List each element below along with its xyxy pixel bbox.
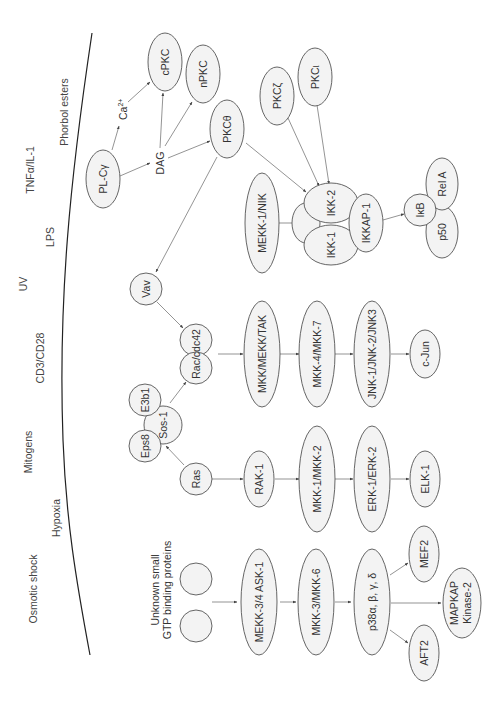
node-e3b1[interactable]: E3b1: [129, 384, 161, 416]
svg-text:IKK-2: IKK-2: [325, 190, 337, 216]
node-mkk3-mkk6[interactable]: MKK-3/MKK-6: [298, 549, 334, 655]
label-unknown-gtp-line1: Unknown small: [149, 554, 161, 625]
node-ikb[interactable]: IκB: [404, 194, 436, 226]
svg-text:Kinase-2: Kinase-2: [461, 582, 473, 624]
svg-text:Vav: Vav: [140, 280, 152, 298]
node-mekk1-nik[interactable]: MEKK-1/NIK: [245, 173, 279, 273]
svg-text:MEKK-3/4 ASK-1: MEKK-3/4 ASK-1: [253, 562, 265, 643]
svg-text:PKCθ: PKCθ: [221, 115, 233, 143]
node-plcg[interactable]: PL-Cγ: [86, 150, 120, 208]
svg-text:ELK-1: ELK-1: [419, 464, 431, 493]
stimulus-tnf-il1: TNFα/IL-1: [24, 146, 36, 194]
node-eps8[interactable]: Eps8: [129, 430, 161, 462]
stimulus-lps: LPS: [44, 227, 56, 247]
node-pkc-iota[interactable]: PKCι: [298, 48, 332, 106]
svg-text:IKKAP-1: IKKAP-1: [360, 203, 372, 243]
svg-text:Sos-1: Sos-1: [157, 411, 169, 439]
node-mkk-mekk-tak[interactable]: MKK/MEKK/TAK: [244, 301, 280, 407]
svg-text:PL-Cγ: PL-Cγ: [97, 164, 109, 194]
svg-text:MEKK-1/NIK: MEKK-1/NIK: [256, 193, 268, 253]
svg-text:p50: p50: [436, 223, 448, 241]
node-mekk34-ask1[interactable]: MEKK-3/4 ASK-1: [241, 549, 277, 655]
label-ca: Ca2+: [117, 99, 129, 120]
svg-text:ERK-1/ERK-2: ERK-1/ERK-2: [366, 446, 378, 511]
svg-text:MKK-4/MKK-7: MKK-4/MKK-7: [311, 320, 323, 387]
svg-text:Rac/cdc42: Rac/cdc42: [190, 329, 202, 379]
svg-text:c-Jun: c-Jun: [419, 341, 431, 367]
free-labels: Ca2+ DAG Unknown small GTP binding prote…: [117, 99, 173, 640]
node-gtp-binding-2[interactable]: [180, 610, 212, 642]
svg-text:MKK/MEKK/TAK: MKK/MEKK/TAK: [256, 315, 268, 393]
node-mef2[interactable]: MEF2: [409, 526, 439, 582]
node-pkc-zeta[interactable]: PKCζ: [260, 67, 294, 125]
node-vav[interactable]: Vav: [130, 273, 162, 305]
node-elk1[interactable]: ELK-1: [410, 451, 440, 507]
node-mkk4-mkk7[interactable]: MKK-4/MKK-7: [299, 301, 335, 407]
node-gtp-binding-1[interactable]: [180, 563, 212, 595]
node-npkc[interactable]: nPKC: [186, 45, 220, 103]
svg-text:nPKC: nPKC: [197, 60, 209, 88]
stimulus-hypoxia: Hypoxia: [50, 499, 62, 537]
node-jnk[interactable]: JNK-1/JNK-2/JNK3: [354, 301, 390, 407]
node-aft2[interactable]: AFT2: [409, 625, 439, 681]
svg-text:Ras: Ras: [190, 470, 202, 489]
node-cpkc[interactable]: cPKC: [148, 33, 182, 91]
svg-text:MKK-1/MKK-2: MKK-1/MKK-2: [311, 445, 323, 512]
label-dag: DAG: [154, 152, 166, 175]
node-ikkap1[interactable]: IKKAP-1: [349, 194, 383, 252]
stimulus-phorbol-esters: Phorbol esters: [58, 78, 70, 146]
svg-text:MAPKAP: MAPKAP: [448, 581, 460, 625]
stimulus-uv: UV: [17, 277, 29, 292]
node-mapkap-kinase2[interactable]: MAPKAP Kinase-2: [443, 568, 481, 638]
svg-text:MEF2: MEF2: [418, 540, 430, 568]
svg-text:Eps8: Eps8: [139, 434, 151, 458]
node-erk[interactable]: ERK-1/ERK-2: [354, 426, 390, 532]
stimulus-cd3-cd28: CD3/CD28: [34, 332, 46, 383]
svg-text:JNK-1/JNK-2/JNK3: JNK-1/JNK-2/JNK3: [366, 309, 378, 399]
label-unknown-gtp-line2: GTP binding proteins: [161, 541, 173, 639]
node-p38[interactable]: p38α, β, γ, δ: [354, 549, 390, 655]
node-pkc-theta[interactable]: PKCθ: [210, 100, 244, 158]
node-mkk1-mkk2[interactable]: MKK-1/MKK-2: [299, 426, 335, 532]
svg-text:IκB: IκB: [414, 202, 426, 217]
nodes: PL-Cγ cPKC nPKC PKCθ PKCζ PKCι V: [86, 33, 481, 681]
svg-text:RAK-1: RAK-1: [253, 463, 265, 494]
svg-text:cPKC: cPKC: [159, 48, 171, 75]
stimulus-osmotic-shock: Osmotic shock: [27, 554, 39, 624]
svg-text:AFT2: AFT2: [418, 640, 430, 666]
svg-text:PKCι: PKCι: [309, 64, 321, 89]
svg-text:p38α, β, γ, δ: p38α, β, γ, δ: [366, 573, 378, 631]
svg-text:Rel A: Rel A: [436, 171, 448, 196]
node-ras[interactable]: Ras: [180, 463, 212, 495]
node-c-jun[interactable]: c-Jun: [410, 330, 440, 378]
svg-text:MKK-3/MKK-6: MKK-3/MKK-6: [310, 568, 322, 635]
stimulus-mitogens: Mitogens: [22, 431, 34, 474]
signaling-pathway-diagram: Phorbol esters TNFα/IL-1 LPS UV CD3/CD28…: [0, 0, 500, 715]
svg-text:IKK-1: IKK-1: [325, 232, 337, 258]
svg-text:E3b1: E3b1: [139, 388, 151, 413]
svg-text:PKCζ: PKCζ: [271, 83, 283, 110]
node-rak1[interactable]: RAK-1: [244, 451, 274, 507]
